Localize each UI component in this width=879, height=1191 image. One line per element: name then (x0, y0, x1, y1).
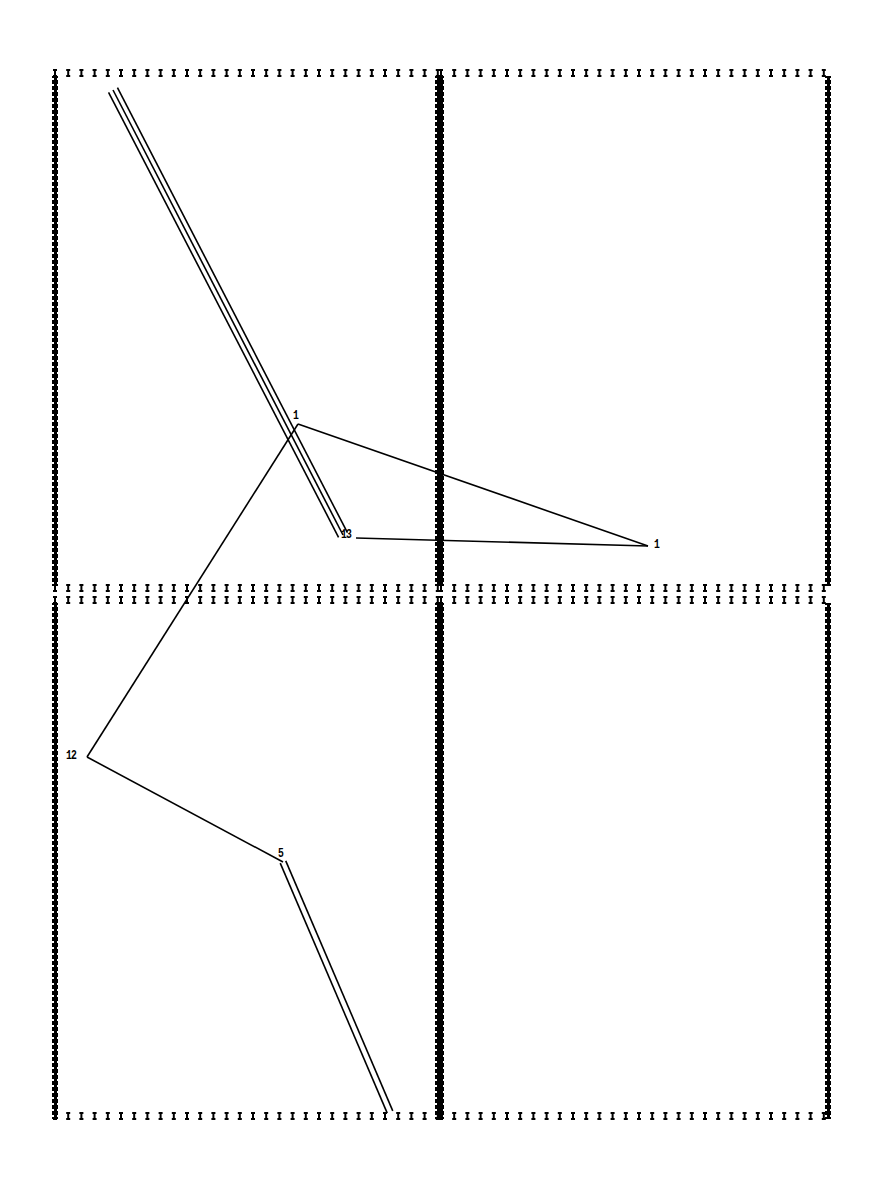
border-dot (198, 69, 202, 77)
border-dot (825, 687, 831, 693)
path-segment (356, 538, 648, 546)
border-dot (624, 596, 628, 604)
border-dot (825, 262, 831, 268)
border-dot (396, 584, 400, 592)
border-dot (106, 69, 110, 77)
border-dot (825, 897, 831, 903)
border-dot (825, 939, 831, 945)
border-dot (825, 957, 831, 963)
border-dot (198, 596, 202, 604)
border-dot (611, 584, 615, 592)
border-dot (795, 1112, 799, 1120)
border-dot (211, 584, 215, 592)
border-dot (52, 945, 58, 951)
border-dot (264, 584, 268, 592)
border-dot (637, 1112, 641, 1120)
border-dot (825, 1047, 831, 1053)
border-dot (545, 596, 549, 604)
border-dot (52, 1065, 58, 1071)
border-dot (52, 580, 58, 586)
border-dot (825, 226, 831, 232)
border-dot (52, 442, 58, 448)
border-dot (52, 310, 58, 316)
path-segment (286, 861, 393, 1111)
border-dot (571, 1112, 575, 1120)
border-dot (52, 1095, 58, 1101)
border-dot (370, 1112, 374, 1120)
border-dot (52, 430, 58, 436)
border-dot (317, 596, 321, 604)
border-dot (825, 442, 831, 448)
border-dot (357, 69, 361, 77)
border-dot (825, 148, 831, 154)
border-dot (825, 633, 831, 639)
border-dot (782, 69, 786, 77)
border-dot (825, 328, 831, 334)
border-dot (185, 1112, 189, 1120)
border-dot (52, 268, 58, 274)
border-dot (343, 596, 347, 604)
border-dot (825, 118, 831, 124)
border-dot (52, 190, 58, 196)
border-dot (264, 596, 268, 604)
border-dot (52, 334, 58, 340)
border-dot (145, 1112, 149, 1120)
border-dot (277, 584, 281, 592)
border-dot (825, 322, 831, 328)
border-dot (439, 596, 443, 604)
border-dot (172, 69, 176, 77)
border-dot (52, 304, 58, 310)
border-dot (93, 1112, 97, 1120)
border-dot (825, 166, 831, 172)
border-dot (825, 310, 831, 316)
border-dot (825, 568, 831, 574)
border-dot (825, 1059, 831, 1065)
border-dot (825, 184, 831, 190)
border-dot (825, 603, 831, 609)
border-dot (409, 1112, 413, 1120)
border-dot (531, 584, 535, 592)
border-dot (825, 717, 831, 723)
border-dot (52, 214, 58, 220)
border-dot (53, 69, 57, 77)
path-segment (113, 90, 343, 535)
border-dot (159, 584, 163, 592)
border-dot (132, 69, 136, 77)
border-dot (52, 1107, 58, 1113)
border-dot (52, 250, 58, 256)
border-dot (52, 226, 58, 232)
border-dot (479, 1112, 483, 1120)
border-dot (825, 376, 831, 382)
border-dot (185, 69, 189, 77)
border-dot (825, 1089, 831, 1095)
border-dot (52, 759, 58, 765)
border-dot (782, 584, 786, 592)
border-dot (584, 596, 588, 604)
border-dot (52, 328, 58, 334)
border-dot (409, 584, 413, 592)
border-dot (409, 69, 413, 77)
border-dot (545, 584, 549, 592)
border-dot (825, 771, 831, 777)
border-dot (52, 1041, 58, 1047)
border-dot (52, 82, 58, 88)
border-dot (52, 879, 58, 885)
border-dot (52, 873, 58, 879)
border-dot (52, 957, 58, 963)
border-dot (825, 268, 831, 274)
border-dot (825, 855, 831, 861)
border-dot (492, 596, 496, 604)
border-dot (822, 596, 826, 604)
border-dot (531, 596, 535, 604)
border-dot (825, 969, 831, 975)
border-dot (52, 765, 58, 771)
node-label: 1 (293, 409, 298, 422)
border-dot (52, 124, 58, 130)
border-dot (650, 584, 654, 592)
border-dot (571, 596, 575, 604)
border-dot (825, 711, 831, 717)
border-dot (825, 412, 831, 418)
border-dot (479, 596, 483, 604)
border-dot (825, 520, 831, 526)
border-dot (317, 584, 321, 592)
